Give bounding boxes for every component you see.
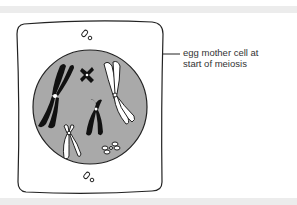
cell-label-line1: egg mother cell at bbox=[183, 47, 259, 58]
cell-label-line2: start of meiosis bbox=[183, 58, 259, 69]
egg-mother-cell-diagram bbox=[0, 0, 297, 205]
cell-label: egg mother cell at start of meiosis bbox=[183, 47, 259, 69]
